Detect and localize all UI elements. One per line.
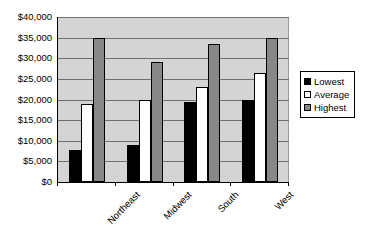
- bar-west-lowest: [242, 100, 254, 183]
- bar-west-highest: [266, 38, 278, 182]
- x-axis-tick: [230, 182, 231, 186]
- bar-northeast-average: [81, 104, 93, 182]
- bar-northeast-lowest: [69, 150, 81, 182]
- bar-northeast-highest: [93, 38, 105, 182]
- bar-midwest-highest: [151, 62, 163, 182]
- legend-item-highest: Highest: [304, 101, 349, 114]
- legend-swatch-lowest-icon: [304, 78, 311, 85]
- bar-south-highest: [208, 44, 220, 182]
- x-axis-label-south: South: [216, 189, 241, 214]
- y-axis-tick-label: $20,000: [18, 95, 52, 105]
- legend-item-average: Average: [304, 88, 349, 101]
- y-axis-tick-label: $15,000: [18, 115, 52, 125]
- y-axis-tick-label: $30,000: [18, 53, 52, 63]
- y-axis-tick-label: $10,000: [18, 136, 52, 146]
- bar-chart: $0$5,000$10,000$15,000$20,000$25,000$30,…: [0, 0, 372, 238]
- bar-south-average: [196, 87, 208, 182]
- x-axis-label-midwest: Midwest: [161, 189, 193, 221]
- y-axis-tick-label: $5,000: [23, 156, 52, 166]
- y-axis-tick-label: $0: [41, 177, 52, 187]
- bar-west-average: [254, 73, 266, 182]
- x-axis-tick: [57, 182, 58, 186]
- legend-label: Lowest: [314, 76, 344, 87]
- legend-item-lowest: Lowest: [304, 75, 349, 88]
- bar-midwest-lowest: [127, 145, 139, 182]
- bar-south-lowest: [184, 102, 196, 182]
- gridline: [58, 17, 289, 18]
- y-axis-labels: $0$5,000$10,000$15,000$20,000$25,000$30,…: [0, 0, 54, 238]
- bar-midwest-average: [139, 100, 151, 183]
- legend-swatch-average-icon: [304, 91, 311, 98]
- chart-legend: LowestAverageHighest: [300, 71, 355, 118]
- plot-area: [57, 17, 289, 183]
- legend-label: Highest: [314, 102, 346, 113]
- x-axis-label-northeast: Northeast: [105, 189, 142, 226]
- y-axis-tick-label: $25,000: [18, 74, 52, 84]
- legend-label: Average: [314, 89, 349, 100]
- x-axis-tick: [115, 182, 116, 186]
- x-axis-tick: [173, 182, 174, 186]
- legend-swatch-highest-icon: [304, 104, 311, 111]
- y-axis-tick-label: $40,000: [18, 12, 52, 22]
- y-axis-tick-label: $35,000: [18, 33, 52, 43]
- x-axis-tick: [288, 182, 289, 186]
- x-axis-label-west: West: [272, 189, 295, 212]
